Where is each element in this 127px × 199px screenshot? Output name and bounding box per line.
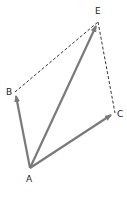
dashed-line-b-e [15, 22, 98, 92]
vector-diagram: E B C A [0, 0, 127, 199]
dashed-line-e-c [98, 22, 115, 113]
vector-a-b-arrow [16, 96, 30, 168]
point-label-a: A [26, 174, 33, 184]
point-label-b: B [6, 87, 12, 97]
point-label-c: C [117, 109, 123, 119]
point-label-e: E [95, 6, 101, 16]
